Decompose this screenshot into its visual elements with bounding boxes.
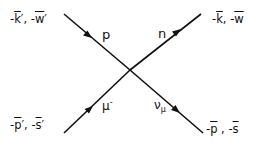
w-bar: w: [234, 12, 243, 26]
neutrino-line: [130, 70, 203, 133]
neutrino-symbol: ν: [154, 98, 161, 112]
muon-line: [64, 70, 130, 133]
neutrino-flavor: μ: [161, 105, 166, 114]
label-top-left-momentum: -k′, -w′: [10, 13, 47, 26]
muon-charge: -: [110, 98, 113, 107]
w-bar: w: [35, 12, 44, 26]
prime: ′: [42, 118, 45, 132]
label-bottom-left-momentum: -p′, -s′: [10, 119, 44, 132]
separator: , -: [217, 122, 232, 136]
prime: ′: [44, 12, 47, 26]
neutron-line: [130, 14, 201, 70]
label-neutron: n: [158, 27, 166, 40]
neutron-symbol: n: [158, 26, 166, 41]
k-bar: k: [216, 12, 223, 26]
label-bottom-right-momentum: -p , -s: [206, 123, 239, 136]
separator: , -: [23, 12, 34, 26]
label-neutrino: νμ: [154, 99, 166, 116]
separator: , -: [223, 12, 234, 26]
k-bar: k: [14, 12, 21, 26]
muon-symbol: μ: [102, 99, 110, 113]
separator: , -: [24, 118, 35, 132]
proton-line: [64, 14, 130, 70]
s-bar: s: [233, 122, 239, 136]
label-top-right-momentum: -k, -w: [212, 13, 244, 26]
label-muon: μ-: [102, 96, 113, 113]
label-proton: p: [102, 28, 110, 41]
proton-symbol: p: [102, 27, 110, 42]
